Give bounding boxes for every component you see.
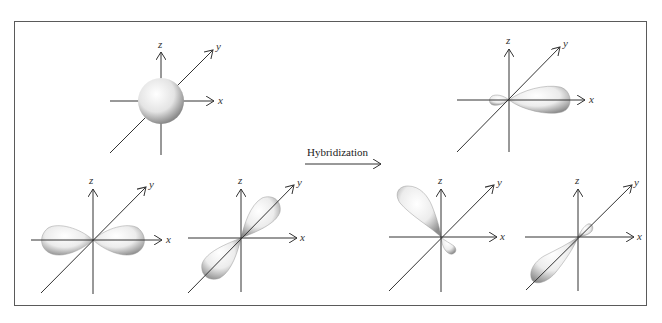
sp2-hybrid-2: z x y	[389, 174, 505, 292]
svg-text:z: z	[574, 174, 580, 186]
svg-text:y: y	[296, 176, 302, 188]
svg-text:x: x	[299, 231, 305, 243]
svg-text:x: x	[636, 230, 642, 242]
py-orbital: z x y	[188, 174, 305, 293]
svg-text:y: y	[148, 178, 154, 190]
s-orbital: z x y	[110, 38, 223, 155]
svg-text:y: y	[633, 176, 639, 188]
svg-text:y: y	[562, 37, 568, 49]
svg-text:x: x	[499, 230, 505, 242]
svg-text:x: x	[217, 94, 223, 106]
s-sphere	[138, 78, 184, 124]
svg-text:y: y	[496, 176, 502, 188]
svg-text:z: z	[505, 34, 511, 46]
svg-text:z: z	[437, 174, 443, 186]
px-orbital: z x y	[31, 174, 171, 294]
svg-text:z: z	[157, 38, 163, 50]
svg-text:x: x	[588, 93, 594, 105]
sp2-hybrid-3: z x y	[525, 174, 642, 291]
svg-text:y: y	[215, 40, 221, 52]
svg-text:z: z	[237, 174, 243, 186]
hybridization-label: Hybridization	[307, 146, 368, 158]
sp2-hybrid-1: z x y	[457, 34, 594, 152]
orbital-diagram: z x y z x y z x y z x y	[0, 0, 662, 323]
svg-text:z: z	[88, 174, 94, 186]
svg-text:x: x	[165, 233, 171, 245]
